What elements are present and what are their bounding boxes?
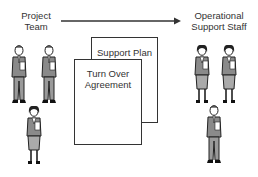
turn-over-agreement-document: Turn Over Agreement — [74, 59, 142, 145]
project-team-man-2-icon — [41, 45, 57, 104]
support-staff-woman-1-icon — [194, 45, 210, 104]
project-team-man-1-icon — [11, 45, 27, 104]
support-plan-text: Support Plan — [92, 47, 157, 58]
turn-over-agreement-line2: Agreement — [75, 79, 141, 90]
support-staff-woman-2-icon — [221, 45, 237, 104]
support-staff-man-icon — [206, 105, 222, 164]
turn-over-agreement-text: Turn Over Agreement — [75, 68, 141, 90]
project-team-woman-icon — [26, 106, 42, 165]
turn-over-agreement-line1: Turn Over — [75, 68, 141, 79]
